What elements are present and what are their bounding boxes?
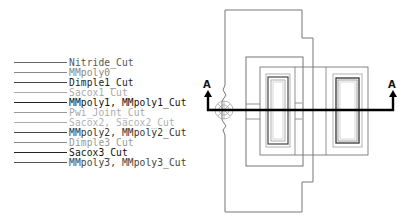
- arrow-up-right-icon: [389, 90, 397, 97]
- section-label-left: A: [203, 79, 211, 90]
- arrow-up-left-icon: [204, 90, 212, 97]
- layout-diagram: A A: [0, 0, 413, 222]
- section-label-right: A: [388, 79, 396, 90]
- anchor-block: [246, 57, 303, 166]
